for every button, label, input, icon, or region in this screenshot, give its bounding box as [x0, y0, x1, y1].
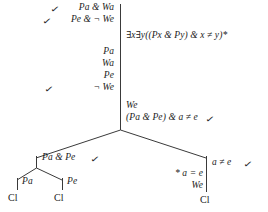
trunk-line-5: Pe — [0, 70, 114, 81]
left-branch-head: Pa & Pe — [42, 152, 75, 163]
checkmark-right-head: ✓ — [243, 159, 253, 169]
left-subbranch-2: Pe — [67, 176, 77, 187]
checkmark-left-head: ✓ — [90, 154, 100, 164]
trunk-line-4: Wa — [0, 58, 114, 69]
closed-marker-left-1: Cl — [8, 192, 17, 203]
trunk-line-3: Pa — [0, 46, 114, 57]
left-subbranch-1: Pa — [22, 176, 33, 187]
right-branch-line-1: * a = e — [148, 168, 203, 179]
premise-formula: ∃x∃y((Px & Py) & x ≠ y)* — [126, 30, 227, 41]
checkmark-trunk-2: ✓ — [42, 16, 52, 26]
checkmark-trunk-1: ✓ — [50, 4, 60, 14]
closed-marker-right: Cl — [200, 194, 209, 205]
subsplit-right-arm — [37, 168, 63, 180]
trunk-line-8: (Pa & Pe) & a ≠ e — [126, 112, 198, 123]
checkmark-trunk-6: ✓ — [44, 84, 54, 94]
truth-tree-diagram: Pa & Wa ✓ Pe & ¬ We ✓ Pa Wa Pe ¬ We ✓ ∃x… — [0, 0, 268, 212]
trunk-line-7: We — [126, 100, 137, 111]
right-branch-line-2: We — [148, 180, 203, 191]
right-branch-head: a ≠ e — [212, 157, 231, 168]
checkmark-trunk-8: ✓ — [205, 114, 215, 124]
split-right-arm — [121, 130, 207, 158]
trunk-line-2: Pe & ¬ We — [0, 14, 114, 25]
trunk-line-6: ¬ We — [0, 82, 114, 93]
closed-marker-left-2: Cl — [54, 192, 63, 203]
